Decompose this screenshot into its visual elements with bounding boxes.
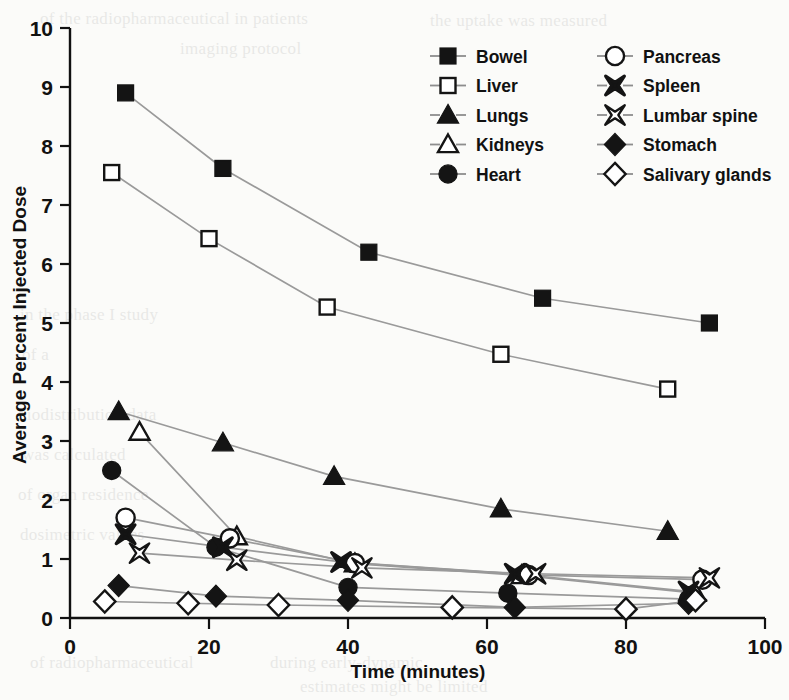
data-point-filled-circle (439, 165, 457, 183)
data-series-group (94, 85, 719, 620)
series-lumbar-spine (140, 553, 710, 578)
legend-label: Spleen (643, 76, 700, 96)
data-point-filled-square (361, 244, 377, 260)
series-lungs (119, 412, 668, 532)
data-point-open-diamond (94, 590, 115, 612)
legend-label: Lungs (476, 106, 529, 126)
y-tick-label: 1 (41, 548, 53, 571)
y-tick-label: 8 (41, 135, 53, 158)
markers-liver (104, 165, 675, 397)
series-line (126, 93, 710, 323)
series-line (119, 412, 668, 532)
markers-bowel (118, 85, 718, 331)
y-tick-label: 7 (41, 194, 53, 217)
legend-label: Lumbar spine (643, 106, 758, 126)
data-point-open-square (441, 78, 456, 93)
data-point-open-circle (117, 509, 135, 527)
series-liver (112, 173, 668, 390)
legend-label: Pancreas (643, 47, 721, 67)
legend-item-bowel: Bowel (430, 47, 528, 67)
legend-label: Heart (476, 165, 521, 185)
data-point-open-square (660, 382, 675, 397)
y-tick-label: 6 (41, 253, 53, 276)
series-bowel (126, 93, 710, 323)
y-tick-label: 2 (41, 489, 53, 512)
data-point-open-x (605, 105, 625, 125)
data-point-open-triangle (130, 422, 150, 440)
data-point-filled-square (215, 160, 231, 176)
y-axis-title: Average Percent Injected Dose (9, 186, 30, 464)
legend-label: Bowel (476, 47, 528, 67)
data-point-filled-square (701, 315, 717, 331)
data-point-filled-square (440, 48, 456, 64)
legend-item-stomach: Stomach (597, 133, 717, 155)
legend-item-liver: Liver (430, 76, 518, 96)
data-point-filled-square (118, 85, 134, 101)
data-point-filled-triangle (212, 432, 233, 451)
legend-item-lumbar-spine: Lumbar spine (597, 105, 758, 125)
data-point-open-circle (606, 47, 624, 65)
legend-label: Stomach (643, 135, 717, 155)
markers-heart (103, 461, 698, 608)
legend-item-lungs: Lungs (430, 104, 529, 125)
y-tick-label: 10 (30, 17, 53, 40)
x-tick-label: 100 (747, 635, 782, 658)
data-point-filled-diamond (604, 133, 625, 155)
x-tick-label: 80 (614, 635, 637, 658)
legend-item-heart: Heart (430, 165, 521, 185)
x-axis-title: Time (minutes) (351, 661, 486, 682)
legend-item-spleen: Spleen (597, 76, 700, 96)
data-point-open-triangle (438, 135, 458, 153)
series-line (112, 173, 668, 390)
legend-label: Liver (476, 76, 518, 96)
legend-label: Kidneys (476, 135, 544, 155)
y-tick-label: 4 (41, 371, 53, 394)
legend-label: Salivary glands (643, 165, 772, 185)
data-point-open-square (320, 300, 335, 315)
x-tick-label: 40 (336, 635, 359, 658)
y-tick-label: 9 (41, 76, 53, 99)
legend-item-salivary-glands: Salivary glands (597, 163, 772, 185)
chart-legend: BowelLiverLungsKidneysHeartPancreasSplee… (430, 47, 772, 186)
data-point-open-diamond (442, 596, 463, 618)
data-point-open-diamond (604, 163, 625, 185)
x-tick-label: 20 (197, 635, 220, 658)
data-point-filled-diamond (108, 575, 129, 597)
data-point-filled-triangle (323, 466, 344, 485)
y-tick-label: 0 (41, 607, 53, 630)
data-point-filled-triangle (108, 401, 129, 420)
x-tick-label: 0 (64, 635, 76, 658)
markers-lungs (108, 401, 678, 539)
legend-item-pancreas: Pancreas (597, 47, 721, 67)
data-point-open-square (493, 347, 508, 362)
data-point-filled-square (535, 290, 551, 306)
legend-item-kidneys: Kidneys (430, 135, 544, 156)
data-point-filled-triangle (437, 104, 458, 123)
data-point-bold-x (606, 76, 625, 95)
data-point-open-square (202, 231, 217, 246)
data-point-open-square (104, 165, 119, 180)
series-line (140, 553, 710, 578)
data-point-open-diamond (178, 592, 199, 614)
data-point-filled-circle (103, 461, 121, 479)
y-tick-label: 5 (41, 312, 53, 335)
x-tick-label: 60 (475, 635, 498, 658)
y-tick-label: 3 (41, 430, 53, 453)
